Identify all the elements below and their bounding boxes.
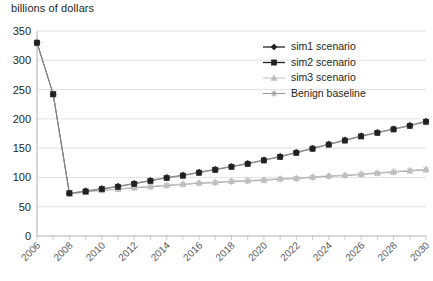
- legend-label: Benign baseline: [291, 87, 366, 99]
- x-axis-group: [37, 236, 426, 240]
- series-line: [37, 43, 426, 194]
- series-2: [34, 40, 428, 196]
- series-1: [34, 40, 429, 197]
- series-lines-group: [34, 40, 429, 197]
- chart-legend: sim1 scenariosim2 scenariosim3 scenarioB…: [263, 40, 366, 99]
- series-3: [34, 40, 429, 197]
- chart-plot: 050100150200250300350 200620082010201220…: [0, 0, 433, 281]
- legend-label: sim3 scenario: [291, 71, 356, 83]
- y-tick-label: 100: [13, 171, 31, 183]
- x-tick-label: 2022: [278, 239, 302, 263]
- x-tick-label: 2028: [375, 239, 399, 263]
- series-line: [37, 43, 426, 194]
- legend-item-2[interactable]: sim2 scenario: [263, 56, 356, 68]
- gridlines-group: [37, 31, 426, 236]
- legend-label: sim2 scenario: [291, 56, 356, 68]
- legend-item-1[interactable]: sim1 scenario: [263, 40, 356, 52]
- x-tick-label: 2010: [84, 239, 108, 263]
- series-line: [37, 43, 426, 194]
- x-tick-label: 2012: [116, 239, 140, 263]
- x-tick-label: 2018: [213, 239, 237, 263]
- series-line: [37, 43, 426, 194]
- data-point-marker: [271, 91, 277, 97]
- y-tick-label: 150: [13, 142, 31, 154]
- x-tick-label: 2026: [343, 239, 367, 263]
- legend-label: sim1 scenario: [291, 40, 356, 52]
- y-tick-label: 200: [13, 113, 31, 125]
- x-tick-label: 2008: [51, 239, 75, 263]
- x-tick-label: 2024: [311, 239, 335, 263]
- x-tick-label: 2014: [149, 239, 173, 263]
- y-tick-label: 0: [25, 230, 31, 242]
- x-tick-labels-group: 2006200820102012201420162018202020222024…: [19, 239, 432, 263]
- x-tick-label: 2016: [181, 239, 205, 263]
- y-tick-label: 50: [19, 201, 31, 213]
- x-tick-label: 2030: [408, 239, 432, 263]
- data-point-marker: [271, 60, 276, 65]
- legend-item-4[interactable]: Benign baseline: [263, 87, 366, 99]
- y-tick-label: 250: [13, 84, 31, 96]
- y-tick-label: 300: [13, 54, 31, 66]
- data-point-marker: [423, 166, 429, 172]
- y-tick-label: 350: [13, 25, 31, 37]
- x-tick-label: 2006: [19, 239, 43, 263]
- x-tick-label: 2020: [246, 239, 270, 263]
- data-point-marker: [271, 44, 277, 50]
- y-tick-labels-group: 050100150200250300350: [13, 25, 31, 242]
- chart-container: billions of dollars 05010015020025030035…: [0, 0, 433, 281]
- legend-item-3[interactable]: sim3 scenario: [263, 71, 356, 83]
